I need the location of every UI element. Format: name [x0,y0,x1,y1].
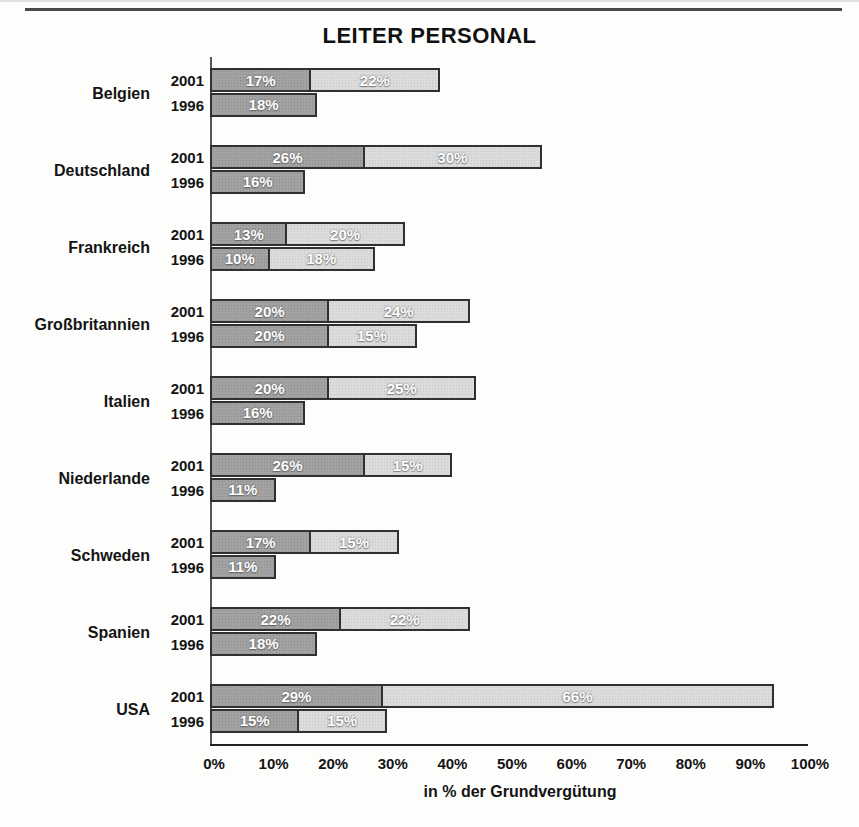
year-label: 1996 [0,713,204,731]
year-label: 1996 [0,97,204,115]
stacked-bar: 17%15% [210,530,399,554]
year-label: 2001 [0,457,204,475]
bar-segment-light: 24% [327,299,470,323]
bar-segment-dark: 29% [210,684,383,708]
x-tick-label: 0% [184,754,244,774]
bar-segment-value: 20% [330,226,360,243]
year-label: 1996 [0,174,204,192]
top-divider-rule [25,8,842,11]
x-tick-label: 30% [363,754,423,774]
bar-segment-dark: 16% [210,170,305,194]
bar-segment-dark: 26% [210,453,365,477]
bar-segment-value: 13% [234,226,264,243]
bar-segment-value: 22% [261,611,291,628]
bar-segment-value: 30% [437,149,467,166]
bar-segment-value: 18% [249,635,279,652]
bar-segment-dark: 17% [210,68,311,92]
stacked-bar: 18% [210,93,317,117]
bar-segment-dark: 11% [210,478,276,502]
stacked-bar: 17%22% [210,68,440,92]
year-label: 2001 [0,72,204,90]
x-tick-label: 90% [720,754,780,774]
bar-segment-dark: 20% [210,299,329,323]
bar-segment-value: 15% [357,327,387,344]
bar-segment-value: 16% [243,404,273,421]
bar-segment-value: 15% [393,457,423,474]
stacked-bar: 10%18% [210,247,375,271]
bar-segment-value: 17% [246,534,276,551]
stacked-bar: 20%24% [210,299,470,323]
year-label: 1996 [0,328,204,346]
x-tick-label: 10% [244,754,304,774]
bar-segment-value: 15% [339,534,369,551]
chart-page: LEITER PERSONAL Belgien200117%22%199618%… [0,0,859,827]
stacked-bar: 11% [210,555,276,579]
stacked-bar: 29%66% [210,684,774,708]
bar-segment-value: 26% [272,457,302,474]
stacked-bar: 26%15% [210,453,452,477]
stacked-bar: 15%15% [210,709,387,733]
x-tick-label: 100% [780,754,840,774]
bar-segment-value: 16% [243,173,273,190]
x-tick-label: 60% [542,754,602,774]
bar-segment-light: 22% [339,607,470,631]
bar-segment-value: 20% [255,303,285,320]
bar-segment-light: 15% [327,324,416,348]
chart-title: LEITER PERSONAL [0,23,859,49]
bar-segment-dark: 26% [210,145,365,169]
bar-segment-light: 66% [381,684,774,708]
stacked-bar: 13%20% [210,222,405,246]
year-label: 2001 [0,303,204,321]
x-tick-label: 80% [661,754,721,774]
year-label: 2001 [0,688,204,706]
bar-segment-light: 15% [363,453,452,477]
bar-segment-dark: 15% [210,709,299,733]
x-tick-label: 50% [482,754,542,774]
year-label: 1996 [0,405,204,423]
stacked-bar: 22%22% [210,607,470,631]
bar-segment-dark: 16% [210,401,305,425]
bar-segment-light: 15% [297,709,386,733]
year-label: 2001 [0,534,204,552]
stacked-bar: 18% [210,632,317,656]
year-label: 1996 [0,636,204,654]
bar-segment-value: 10% [225,250,255,267]
year-label: 1996 [0,251,204,269]
stacked-bar: 20%25% [210,376,476,400]
bar-segment-value: 25% [387,380,417,397]
bar-segment-value: 11% [228,481,257,498]
stacked-bar: 16% [210,170,305,194]
year-label: 1996 [0,482,204,500]
year-label: 2001 [0,611,204,629]
x-axis-line [210,744,808,746]
bar-segment-dark: 13% [210,222,287,246]
x-axis-title: in % der Grundvergütung [220,782,820,802]
bar-segment-light: 18% [268,247,375,271]
x-tick-label: 40% [422,754,482,774]
bar-segment-value: 20% [255,380,285,397]
stacked-bar: 26%30% [210,145,542,169]
bar-segment-dark: 20% [210,376,329,400]
bar-segment-value: 15% [327,712,357,729]
stacked-bar: 20%15% [210,324,417,348]
bar-segment-value: 66% [562,688,592,705]
bar-segment-value: 18% [306,250,336,267]
x-tick-label: 20% [303,754,363,774]
year-label: 1996 [0,559,204,577]
bar-segment-value: 20% [255,327,285,344]
bar-segment-value: 11% [228,558,257,575]
bar-segment-dark: 20% [210,324,329,348]
bar-segment-value: 22% [360,72,390,89]
bar-segment-value: 29% [281,688,311,705]
bar-segment-dark: 17% [210,530,311,554]
bar-segment-dark: 10% [210,247,270,271]
bar-segment-dark: 11% [210,555,276,579]
stacked-bar: 16% [210,401,305,425]
page-top-edge [0,0,859,2]
bar-segment-value: 22% [390,611,420,628]
bar-segment-value: 24% [384,303,414,320]
x-tick-label: 70% [601,754,661,774]
bar-segment-value: 18% [249,96,279,113]
bar-segment-value: 26% [272,149,302,166]
year-label: 2001 [0,149,204,167]
